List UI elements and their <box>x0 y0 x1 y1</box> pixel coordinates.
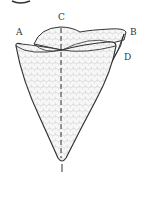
cone-body <box>16 42 116 161</box>
label-c: C <box>58 13 65 22</box>
partial-glyph <box>12 1 30 3</box>
label-b: B <box>130 28 137 37</box>
label-a: A <box>16 28 23 37</box>
label-d: D <box>124 53 131 62</box>
